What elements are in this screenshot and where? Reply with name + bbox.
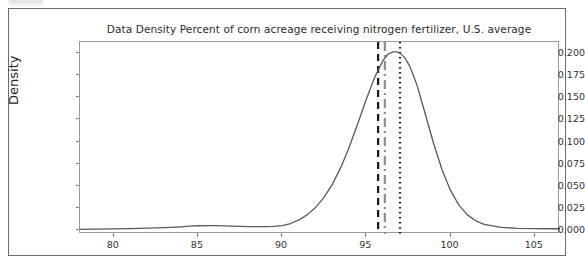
figure-frame: Data Density Percent of corn acreage rec… <box>8 8 566 256</box>
x-tick-label: 100 <box>440 239 458 250</box>
density-curve-group <box>80 52 560 230</box>
x-tick-label: 95 <box>359 239 371 250</box>
x-tick-label: 85 <box>191 239 203 250</box>
reference-lines-group <box>378 42 400 234</box>
x-tick-label: 80 <box>107 239 119 250</box>
scan-artifact <box>9 0 43 7</box>
density-curve <box>80 52 560 230</box>
y-axis-title: Density <box>6 56 21 105</box>
x-tick-label: 90 <box>275 239 287 250</box>
chart-title: Data Density Percent of corn acreage rec… <box>79 23 559 35</box>
plot-area <box>79 41 559 233</box>
x-tick-label: 105 <box>525 239 543 250</box>
density-plot-svg <box>80 42 560 234</box>
